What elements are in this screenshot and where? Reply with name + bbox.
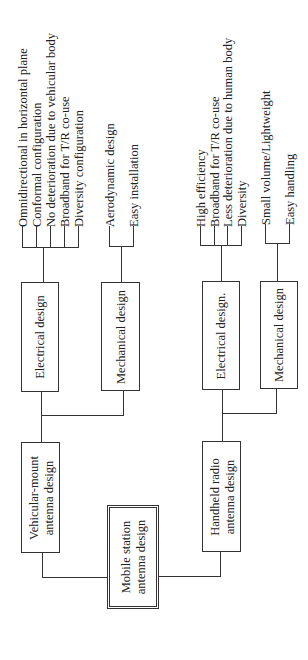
connector-v-mech-stem (121, 246, 122, 282)
connector-v-elec-leaf-1 (36, 226, 37, 248)
connector-v-elec-leaf-4 (78, 226, 79, 248)
connector-h-mech-leaf-0 (265, 224, 266, 244)
leaf-v-elec-3: Broadband for T/R co-use (58, 96, 72, 227)
leaf-h-mech-0: Small volume/Lightweight (259, 91, 273, 225)
connector-h-elec-stem (221, 245, 222, 281)
node-vehicular-label: Vehicular-mountantenna design (26, 456, 55, 540)
node-vehicular-mechanical-label: Mechanical design (113, 289, 128, 383)
node-vehicular-mount: Vehicular-mountantenna design (21, 442, 60, 553)
connector-h-mech-bar (265, 243, 290, 244)
node-vehicular-electrical-label: Electrical design (33, 295, 48, 379)
leaf-h-elec-1: Broadband for T/R co-use (208, 96, 222, 227)
connector-v-elec-leaf-3 (64, 226, 65, 248)
connector-v-elec-leaf-2 (50, 226, 51, 248)
node-handheld-mechanical-label: Mechanical design (272, 288, 287, 382)
connector-vehicular-up (41, 391, 42, 442)
leaf-h-elec-2: Less deterioration due to human body (221, 38, 235, 227)
node-handheld-radio: Handheld radioantenna design (202, 441, 241, 552)
connector-v-elec-stem (43, 247, 44, 282)
connector-root-to-vehicular (42, 577, 108, 578)
leaf-v-mech-0: Aerodynamic design (103, 123, 117, 227)
connector-h-elec-leaf-1 (214, 226, 215, 246)
connector-h-elec-bar (200, 245, 242, 246)
connector-vehicular-split (41, 415, 124, 416)
node-vehicular-mechanical: Mechanical design (101, 282, 140, 391)
node-handheld-label: Handheld radioantenna design (207, 458, 236, 535)
leaf-v-elec-0: Omnidirectional in horizontal plane (16, 48, 30, 227)
leaf-v-elec-1: Conformal configuration (30, 102, 44, 227)
connector-root-to-handheld (158, 576, 221, 577)
leaf-v-elec-2: No deterioration due to vehicular body (44, 33, 58, 227)
node-handheld-electrical-label: Electrical design. (214, 292, 229, 379)
leaf-h-mech-1: Easy handling (283, 154, 297, 225)
connector-v-mech-leaf-0 (109, 226, 110, 247)
node-handheld-mechanical: Mechanical design (260, 281, 298, 389)
connector-h-mech-leaf-1 (289, 224, 290, 244)
root-node-mobile-station: Mobile stationantenna design (107, 505, 159, 609)
connector-h-elec-leaf-3 (241, 226, 242, 246)
connector-h-elec-leaf-0 (200, 226, 201, 246)
leaf-h-elec-0: High efficiency (194, 149, 208, 227)
node-vehicular-electrical: Electrical design (21, 282, 59, 392)
connector-vehicular-mech-drop (123, 390, 124, 416)
leaf-v-elec-4: Diversity configuration (72, 110, 86, 227)
leaf-h-elec-3: Diversity (235, 180, 249, 227)
connector-v-mech-leaf-1 (133, 226, 134, 247)
connector-handheld-drop (220, 551, 221, 577)
connector-handheld-split (222, 413, 277, 414)
connector-handheld-up (222, 389, 223, 441)
connector-v-mech-bar (109, 246, 134, 247)
connector-h-elec-leaf-2 (227, 226, 228, 246)
connector-v-elec-leaf-0 (22, 226, 23, 248)
connector-vehicular-drop (42, 552, 43, 578)
node-handheld-electrical: Electrical design. (202, 281, 240, 390)
leaf-v-mech-1: Easy installation (127, 144, 141, 227)
connector-handheld-mech-drop (276, 388, 277, 414)
root-node-label: Mobile stationantenna design (119, 520, 148, 595)
connector-h-mech-stem (277, 243, 278, 281)
